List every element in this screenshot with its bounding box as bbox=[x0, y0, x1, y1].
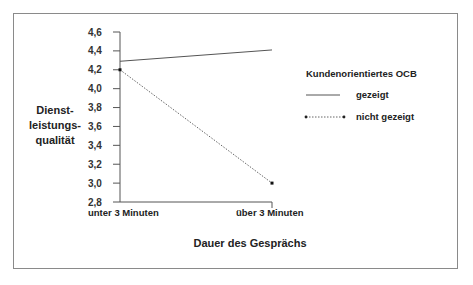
legend-item-gezeigt: gezeigt bbox=[306, 89, 456, 103]
y-tick-label: 3,2 bbox=[88, 159, 102, 170]
x-category-label: unter 3 Minuten bbox=[88, 207, 159, 218]
y-ticks: 4,64,44,24,03,83,63,43,23,02,8 bbox=[88, 27, 120, 208]
y-axis-label-line: Dienst- bbox=[18, 103, 92, 118]
legend-label: gezeigt bbox=[356, 89, 389, 100]
series-line-gezeigt bbox=[120, 50, 272, 61]
y-tick-label: 4,2 bbox=[88, 64, 102, 75]
y-tick-label: 4,6 bbox=[88, 27, 102, 38]
data-point-marker bbox=[119, 68, 122, 71]
legend-title: Kundenorientiertes OCB bbox=[306, 68, 417, 79]
x-category-label: über 3 Minuten bbox=[236, 207, 304, 218]
y-axis-label: Dienst- leistungs- qualität bbox=[18, 103, 92, 148]
data-point-marker bbox=[271, 182, 274, 185]
x-axis-title: Dauer des Gesprächs bbox=[150, 237, 350, 249]
y-tick-label: 4,4 bbox=[88, 45, 102, 56]
legend-item-nicht-gezeigt: nicht gezeigt bbox=[306, 111, 456, 125]
legend-label: nicht gezeigt bbox=[356, 111, 414, 122]
y-axis-label-line: qualität bbox=[18, 133, 92, 148]
y-tick-label: 2,8 bbox=[88, 197, 102, 208]
series-line-nicht-gezeigt bbox=[120, 70, 272, 183]
y-axis-label-line: leistungs- bbox=[18, 118, 92, 133]
y-tick-label: 4,0 bbox=[88, 83, 102, 94]
series-lines bbox=[119, 50, 274, 185]
y-tick-label: 3,0 bbox=[88, 178, 102, 189]
